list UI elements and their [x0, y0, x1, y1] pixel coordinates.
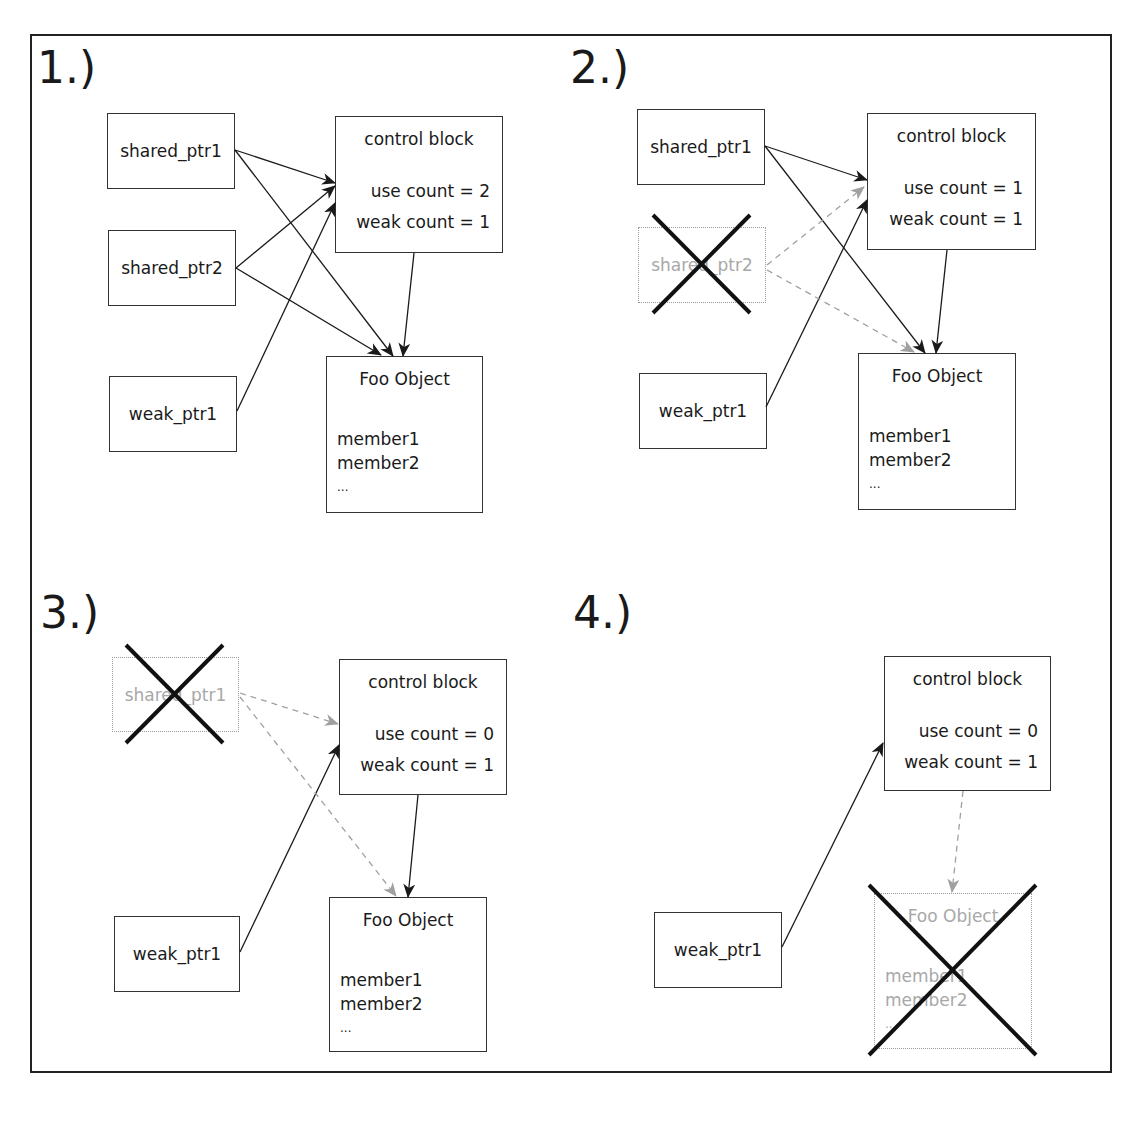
weak-ptr1-label: weak_ptr1 — [655, 940, 781, 960]
member2: member2 — [869, 448, 952, 472]
panel-4-foo-object-destroyed: Foo Object member1 member2 ... — [874, 893, 1032, 1049]
weak-count: weak count = 1 — [904, 752, 1038, 772]
use-count: use count = 2 — [371, 181, 490, 201]
panel-2-control-block: control block use count = 1 weak count =… — [867, 113, 1036, 250]
ellipsis: ... — [340, 1016, 423, 1040]
weak-ptr1-label: weak_ptr1 — [640, 401, 766, 421]
panel-2-shared-ptr1-box: shared_ptr1 — [637, 109, 765, 185]
panel-1-label: 1.) — [37, 46, 96, 90]
weak-ptr1-label: weak_ptr1 — [115, 944, 239, 964]
panel-2-label: 2.) — [570, 46, 629, 90]
ellipsis: ... — [885, 1012, 968, 1036]
panel-3-label: 3.) — [40, 591, 99, 635]
use-count: use count = 0 — [919, 721, 1038, 741]
panel-2-foo-object: Foo Object member1 member2 ... — [858, 353, 1016, 510]
panel-4-label: 4.) — [573, 591, 632, 635]
panel-1-control-block: control block use count = 2 weak count =… — [335, 116, 503, 253]
shared-ptr2-label: shared_ptr2 — [639, 255, 765, 275]
panel-1-weak-ptr1-box: weak_ptr1 — [109, 376, 237, 452]
shared-ptr1-label: shared_ptr1 — [113, 685, 238, 705]
foo-object-title: Foo Object — [330, 910, 486, 930]
ellipsis: ... — [869, 472, 952, 496]
use-count: use count = 0 — [375, 724, 494, 744]
shared-ptr1-label: shared_ptr1 — [108, 141, 234, 161]
foo-members: member1 member2 ... — [340, 968, 423, 1040]
panel-3-foo-object: Foo Object member1 member2 ... — [329, 897, 487, 1052]
use-count: use count = 1 — [904, 178, 1023, 198]
control-block-title: control block — [340, 672, 506, 692]
member1: member1 — [340, 968, 423, 992]
panel-1-shared-ptr2-box: shared_ptr2 — [108, 230, 236, 306]
member1: member1 — [869, 424, 952, 448]
control-block-title: control block — [868, 126, 1035, 146]
shared-ptr1-label: shared_ptr1 — [638, 137, 764, 157]
member2: member2 — [885, 988, 968, 1012]
panel-2-weak-ptr1-box: weak_ptr1 — [639, 373, 767, 449]
foo-members: member1 member2 ... — [869, 424, 952, 496]
panel-1-shared-ptr1-box: shared_ptr1 — [107, 113, 235, 189]
weak-count: weak count = 1 — [356, 212, 490, 232]
foo-object-title: Foo Object — [859, 366, 1015, 386]
foo-object-title: Foo Object — [875, 906, 1031, 926]
member1: member1 — [337, 427, 420, 451]
panel-3-control-block: control block use count = 0 weak count =… — [339, 659, 507, 795]
panel-4-weak-ptr1-box: weak_ptr1 — [654, 912, 782, 988]
member2: member2 — [340, 992, 423, 1016]
member2: member2 — [337, 451, 420, 475]
foo-members: member1 member2 ... — [885, 964, 968, 1036]
member1: member1 — [885, 964, 968, 988]
weak-count: weak count = 1 — [360, 755, 494, 775]
weak-count: weak count = 1 — [889, 209, 1023, 229]
panel-4-control-block: control block use count = 0 weak count =… — [884, 656, 1051, 791]
panel-3-weak-ptr1-box: weak_ptr1 — [114, 916, 240, 992]
panel-2-shared-ptr2-box-destroyed: shared_ptr2 — [638, 227, 766, 303]
control-block-title: control block — [885, 669, 1050, 689]
shared-ptr2-label: shared_ptr2 — [109, 258, 235, 278]
control-block-title: control block — [336, 129, 502, 149]
foo-object-title: Foo Object — [327, 369, 482, 389]
foo-members: member1 member2 ... — [337, 427, 420, 499]
ellipsis: ... — [337, 475, 420, 499]
panel-3-shared-ptr1-box-destroyed: shared_ptr1 — [112, 657, 239, 732]
weak-ptr1-label: weak_ptr1 — [110, 404, 236, 424]
diagram-stage: 1.) shared_ptr1 shared_ptr2 weak_ptr1 co… — [0, 0, 1131, 1147]
panel-1-foo-object: Foo Object member1 member2 ... — [326, 356, 483, 513]
